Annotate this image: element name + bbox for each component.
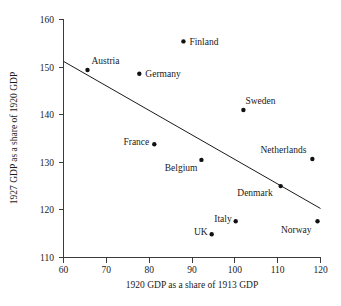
data-point-label: Netherlands xyxy=(260,145,306,155)
data-point-marker xyxy=(310,157,314,161)
data-point-marker xyxy=(241,108,245,112)
data-point-label: Norway xyxy=(281,225,312,235)
data-point-label: UK xyxy=(194,227,208,237)
x-tick-label: 90 xyxy=(187,265,197,275)
x-tick-label: 70 xyxy=(102,265,112,275)
x-tick-label: 100 xyxy=(228,265,243,275)
y-tick-label: 120 xyxy=(40,205,55,215)
y-axis-title: 1927 GDP as a share of 1920 GDP xyxy=(9,72,19,204)
y-tick-label: 140 xyxy=(40,110,55,120)
data-point-label: Belgium xyxy=(165,163,198,173)
data-point-marker xyxy=(315,219,319,223)
data-point-marker xyxy=(137,72,141,76)
data-point-label: Sweden xyxy=(245,96,275,106)
data-point-marker xyxy=(152,142,156,146)
x-tick-label: 60 xyxy=(59,265,69,275)
x-tick-label: 110 xyxy=(271,265,285,275)
data-point-marker xyxy=(210,232,214,236)
y-tick-label: 150 xyxy=(40,63,55,73)
data-point-marker xyxy=(233,219,237,223)
data-point-label: Germany xyxy=(145,69,181,79)
y-tick-label: 130 xyxy=(40,158,55,168)
data-point-label: France xyxy=(123,137,149,147)
plot-canvas: 110120130140150160 60708090100110120 Fin… xyxy=(0,0,341,306)
y-tick-label: 110 xyxy=(40,253,54,263)
data-point-marker xyxy=(85,68,89,72)
x-tick-label: 120 xyxy=(313,265,328,275)
data-point-marker xyxy=(199,158,203,162)
x-tick-label: 80 xyxy=(144,265,154,275)
data-point-label: Italy xyxy=(214,214,232,224)
data-point-label: Austria xyxy=(91,56,120,66)
data-point-label: Denmark xyxy=(237,188,273,198)
x-axis-title: 1920 GDP as a share of 1913 GDP xyxy=(126,280,258,290)
y-tick-label: 160 xyxy=(40,15,55,25)
scatter-plot-figure: 110120130140150160 60708090100110120 Fin… xyxy=(0,0,341,306)
data-points-group: FinlandAustriaGermanySwedenFranceNetherl… xyxy=(85,37,319,237)
data-point-marker xyxy=(278,184,282,188)
data-point-marker xyxy=(181,39,185,43)
data-point-label: Finland xyxy=(189,37,218,47)
x-axis-ticks: 60708090100110120 xyxy=(59,258,328,276)
y-axis-ticks: 110120130140150160 xyxy=(40,15,64,263)
